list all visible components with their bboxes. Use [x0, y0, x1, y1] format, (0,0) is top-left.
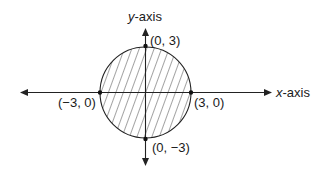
point-bottom: [143, 137, 147, 141]
point-right: [189, 90, 193, 94]
x-axis-left-arrow-icon: [20, 89, 28, 96]
point-top: [143, 44, 147, 48]
y-axis-label: y-axis: [127, 9, 162, 24]
x-axis-label: x-axis: [275, 85, 310, 100]
circle-diagram: y-axis x-axis (0, 3) (3, 0) (0, −3) (−3,…: [0, 0, 320, 180]
point-label-bottom: (0, −3): [152, 140, 190, 155]
x-axis-right-arrow-icon: [264, 89, 272, 96]
point-label-top: (0, 3): [150, 33, 180, 48]
point-left: [98, 90, 102, 94]
point-label-right: (3, 0): [194, 95, 224, 110]
point-label-left: (−3, 0): [58, 95, 96, 110]
y-axis-up-arrow-icon: [142, 28, 149, 36]
y-axis-down-arrow-icon: [142, 158, 149, 166]
